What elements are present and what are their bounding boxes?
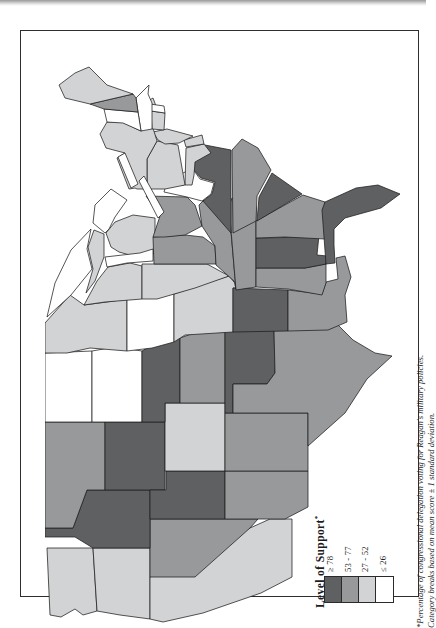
legend-swatch-1 bbox=[376, 577, 393, 602]
legend-label-2: 27 - 52 bbox=[360, 546, 370, 572]
state-fl bbox=[322, 185, 400, 264]
state-az bbox=[225, 471, 308, 519]
state-co bbox=[165, 403, 225, 471]
state-al bbox=[256, 235, 327, 268]
figure-footnote: *Percentage of congressional delegation … bbox=[415, 355, 436, 628]
state-ct bbox=[151, 111, 165, 130]
state-wy bbox=[105, 422, 165, 490]
footnote-line-1: *Percentage of congressional delegation … bbox=[415, 355, 426, 628]
state-ar bbox=[233, 288, 288, 332]
legend-swatch-4 bbox=[325, 577, 342, 602]
legend-label-3: 53 - 77 bbox=[343, 546, 353, 572]
figure-border-frame: Level of Support* *Percentage of congres… bbox=[20, 30, 419, 597]
state-ks bbox=[180, 332, 225, 403]
state-nm bbox=[225, 413, 308, 471]
page-scan-edge bbox=[0, 0, 426, 6]
legend-label-4: ≥ 78 bbox=[325, 556, 335, 572]
us-choropleth-svg bbox=[45, 65, 407, 625]
state-nd bbox=[45, 351, 92, 422]
legend-swatch-3 bbox=[342, 577, 359, 602]
legend-swatch-2 bbox=[359, 577, 376, 602]
legend-swatch-strip bbox=[324, 576, 394, 603]
state-wa bbox=[47, 548, 97, 617]
state-or bbox=[93, 548, 150, 619]
state-in bbox=[153, 235, 216, 264]
footnote-line-2: Category breaks based on mean score ± 1 … bbox=[426, 355, 436, 628]
rotated-us-map bbox=[45, 65, 407, 625]
legend-label-1: ≤ 26 bbox=[378, 556, 388, 572]
state-sd bbox=[92, 347, 142, 422]
legend-note-mark: * bbox=[313, 515, 321, 519]
